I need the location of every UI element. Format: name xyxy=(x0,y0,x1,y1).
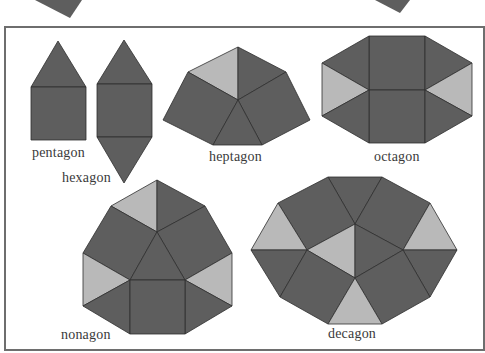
polygon-dissection-figure: pentagon hexagon heptagon octagon nonago… xyxy=(0,0,485,353)
decagon-label: decagon xyxy=(328,326,376,342)
top-right-cropped-shape xyxy=(375,0,410,13)
heptagon-label: heptagon xyxy=(209,149,262,165)
nonagon-label: nonagon xyxy=(61,327,111,343)
octagon-label: octagon xyxy=(374,149,420,165)
figure-frame xyxy=(4,26,485,351)
top-left-cropped-shape xyxy=(35,0,82,18)
hexagon-label: hexagon xyxy=(62,170,111,186)
pentagon-label: pentagon xyxy=(32,145,85,161)
